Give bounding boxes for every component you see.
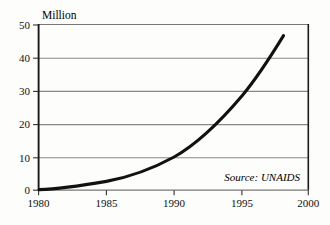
y-tick-label-0: 0 [25,184,31,196]
y-tick-label-20: 20 [19,118,31,130]
y-tick-label-40: 40 [19,52,31,64]
chart-canvas: 0 10 20 30 40 50 1980 1985 1990 1995 200… [0,0,330,225]
y-tick-label-30: 30 [19,85,31,97]
y-tick-marks [33,25,38,190]
x-tick-label-2000: 2000 [297,197,320,209]
x-tick-label-1985: 1985 [95,197,118,209]
y-tick-label-10: 10 [19,152,31,164]
x-tick-label-1995: 1995 [231,197,254,209]
plot-area-background [38,24,309,190]
y-tick-label-50: 50 [19,19,31,31]
x-tick-label-1980: 1980 [28,197,51,209]
y-axis-unit-label: Million [42,9,77,21]
source-annotation: Source: UNAIDS [224,171,300,183]
x-tick-marks [39,190,309,195]
x-tick-label-1990: 1990 [163,197,186,209]
chart-figure: 0 10 20 30 40 50 1980 1985 1990 1995 200… [0,0,330,225]
